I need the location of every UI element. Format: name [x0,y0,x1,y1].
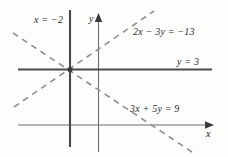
intersection-point-marker [67,67,72,72]
x-axis-label: x [206,128,210,139]
x-axis [18,121,214,129]
label-line-2x-minus-3y: 2x − 3y = −13 [133,26,195,37]
y-axis-label: y [89,13,93,24]
label-line-x-equals-minus-2: x = −2 [34,14,63,25]
label-line-3x-plus-5y: 3x + 5y = 9 [130,103,180,114]
y-axis [95,13,103,152]
line-3x-plus-5y-equals-9 [13,33,192,152]
graph-figure: x = −2 2x − 3y = −13 y = 3 3x + 5y = 9 y… [0,0,228,157]
y-axis-arrowhead [95,13,103,22]
label-line-y-equals-3: y = 3 [177,56,199,67]
